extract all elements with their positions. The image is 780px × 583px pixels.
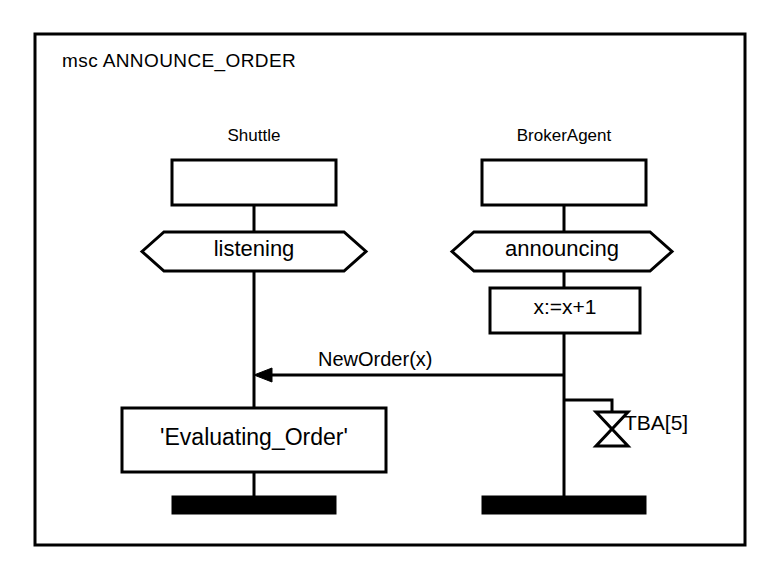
brokeragent-head-box (482, 160, 646, 205)
msc-frame-title: msc ANNOUNCE_ORDER (62, 50, 296, 72)
state-label-evaluating-order: 'Evaluating_Order' (122, 424, 386, 451)
timer-label-tba: TBA[5] (624, 411, 688, 435)
condition-label-listening: listening (142, 236, 366, 262)
msc-diagram-canvas (0, 0, 780, 583)
instance-name-shuttle: Shuttle (172, 126, 336, 146)
condition-label-announcing: announcing (452, 236, 672, 262)
instance-name-brokeragent: BrokerAgent (482, 126, 646, 146)
message-label-neworder: NewOrder(x) (318, 348, 432, 371)
brokeragent-termination-bar (482, 496, 646, 514)
action-label-increment: x:=x+1 (490, 295, 640, 319)
shuttle-termination-bar (172, 496, 336, 514)
shuttle-head-box (172, 160, 336, 205)
